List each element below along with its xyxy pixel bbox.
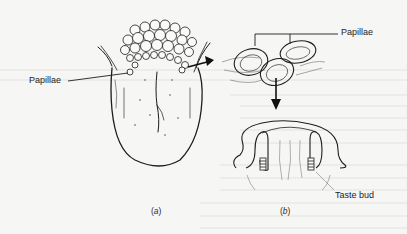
tongue-illustration <box>98 42 210 166</box>
tongue-taste-diagram: Papillae Papillae Taste bud (a) (b) <box>0 0 407 234</box>
panel-b-caption: (b) <box>280 206 290 216</box>
papillae-cluster <box>121 20 197 75</box>
arrow-right-icon <box>188 56 214 67</box>
taste-bud-leader <box>316 172 334 190</box>
taste-bud-cross-section <box>234 121 346 190</box>
panel-a-caption: (a) <box>151 206 161 216</box>
papillae-label-left: Papillae <box>29 75 61 85</box>
enlarged-papillae <box>222 34 338 90</box>
taste-bud-label: Taste bud <box>335 190 374 200</box>
arrow-down-icon <box>271 78 281 110</box>
scan-background-lines <box>0 70 407 228</box>
papillae-label-right: Papillae <box>341 27 373 37</box>
